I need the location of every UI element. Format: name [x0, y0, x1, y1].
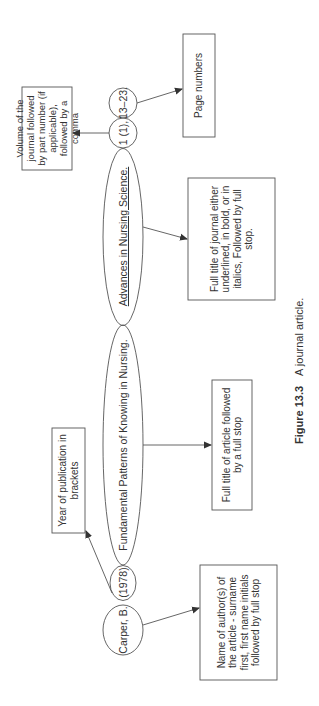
box-article-label: Full title of article followed by a full… — [212, 380, 252, 510]
oval-author-label: Carper, B. — [113, 605, 133, 655]
box-pages-label: Page numbers — [183, 34, 215, 137]
figure-title: A journal article. — [293, 298, 305, 376]
box-year-label: Year of publication in brackets — [52, 428, 85, 533]
box-volume-label: Volume of the journal followed by part n… — [22, 87, 72, 170]
oval-article-title-label: Fundamental Patterns of Knowing in Nursi… — [113, 325, 133, 565]
oval-journal-title-label: Advances in Nursing Science. — [113, 148, 133, 325]
box-author-label: Name of author(s) of the article - surna… — [200, 565, 277, 680]
citation-diagram: Carper, B. (1978) Fundamental Patterns o… — [0, 0, 319, 706]
figure-number: Figure 13.3 — [293, 386, 305, 444]
box-journal-label: Full title of journal either underlined,… — [188, 178, 275, 300]
oval-pages-label: 13–23. — [113, 88, 133, 118]
oval-volume-label: 1 (1), — [113, 118, 133, 148]
figure-caption: Figure 13.3A journal article. — [293, 298, 305, 444]
oval-year-label: (1978) — [113, 565, 133, 600]
